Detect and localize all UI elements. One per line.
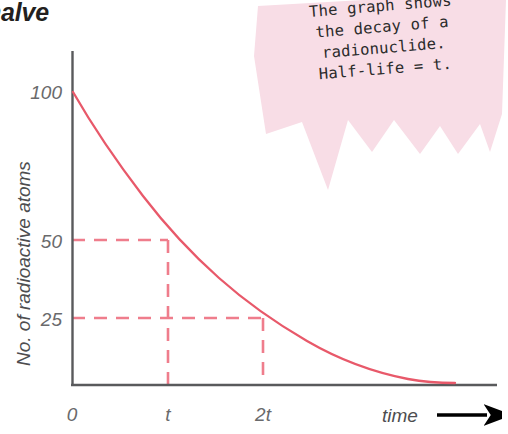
guide-lines	[72, 240, 263, 385]
y-tick-label-25: 25	[40, 309, 63, 330]
x-axis-title: time	[382, 405, 418, 426]
x-tick-label-0: 0	[67, 404, 78, 425]
y-tick-label-50: 50	[41, 231, 63, 252]
x-tick-label-t: t	[165, 404, 171, 425]
x-tick-label-2t: 2t	[254, 404, 272, 425]
y-tick-label-100: 100	[30, 82, 62, 103]
speech-bubble: The graph shows the decay of a radionucl…	[244, 0, 506, 199]
y-axis-title: No. of radioactive atoms	[13, 161, 34, 366]
